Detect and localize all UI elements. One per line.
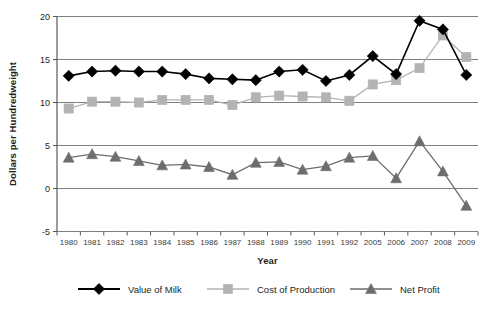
diamond-marker-icon	[157, 66, 168, 77]
y-tick-label: 5	[45, 141, 50, 151]
series-line	[69, 21, 467, 81]
x-axis-ticks: 1980198119821983198419851986198719881989…	[57, 232, 478, 248]
series-value-of-milk	[63, 15, 472, 86]
y-tick-label: -5	[42, 227, 50, 237]
square-marker-icon	[134, 98, 143, 107]
square-marker-icon	[181, 95, 190, 104]
square-marker-icon	[251, 93, 260, 102]
square-marker-icon	[158, 95, 167, 104]
triangle-marker-icon	[227, 169, 238, 179]
diamond-marker-icon	[250, 75, 261, 86]
square-marker-icon	[368, 80, 377, 89]
y-tick-label: 0	[45, 184, 50, 194]
y-gridlines: -505101520	[40, 12, 478, 237]
y-tick-label: 15	[40, 55, 50, 65]
legend-label: Cost of Production	[257, 284, 335, 295]
square-marker-icon	[275, 91, 284, 100]
square-marker-icon	[223, 284, 232, 293]
square-marker-icon	[415, 64, 424, 73]
series-net-profit	[63, 136, 471, 210]
x-tick-label: 2009	[457, 238, 475, 247]
diamond-marker-icon	[203, 73, 214, 84]
x-tick-label: 1982	[107, 238, 125, 247]
triangle-marker-icon	[414, 136, 425, 146]
square-marker-icon	[462, 52, 471, 61]
triangle-marker-icon	[461, 200, 472, 210]
square-marker-icon	[111, 97, 120, 106]
x-tick-label: 2006	[387, 238, 405, 247]
x-tick-label: 1990	[294, 238, 312, 247]
diamond-marker-icon	[227, 74, 238, 85]
x-tick-label: 1989	[270, 238, 288, 247]
diamond-marker-icon	[110, 65, 121, 76]
x-tick-label: 1991	[317, 238, 335, 247]
x-tick-label: 1988	[247, 238, 265, 247]
x-tick-label: 2007	[411, 238, 429, 247]
y-tick-label: 20	[40, 12, 50, 22]
x-axis-title: Year	[257, 255, 278, 266]
diamond-marker-icon	[86, 66, 97, 77]
x-tick-label: 1983	[130, 238, 148, 247]
x-tick-label: 1981	[83, 238, 101, 247]
diamond-marker-icon	[63, 70, 74, 81]
triangle-marker-icon	[321, 161, 332, 171]
diamond-marker-icon	[93, 283, 104, 294]
diamond-marker-icon	[133, 66, 144, 77]
diamond-marker-icon	[320, 75, 331, 86]
square-marker-icon	[204, 95, 213, 104]
chart-container: -505101520198019811982198319841985198619…	[0, 0, 489, 311]
x-tick-label: 1992	[340, 238, 358, 247]
x-tick-label: 2008	[434, 238, 452, 247]
square-marker-icon	[228, 100, 237, 109]
triangle-marker-icon	[367, 150, 378, 160]
legend-label: Net Profit	[400, 284, 440, 295]
x-tick-label: 1987	[224, 238, 242, 247]
square-marker-icon	[87, 97, 96, 106]
triangle-marker-icon	[87, 149, 98, 159]
diamond-marker-icon	[297, 64, 308, 75]
diamond-marker-icon	[274, 66, 285, 77]
square-marker-icon	[298, 92, 307, 101]
y-tick-label: 10	[40, 98, 50, 108]
square-marker-icon	[64, 104, 73, 113]
legend-label: Value of Milk	[128, 284, 182, 295]
chart-legend: Value of MilkCost of ProductionNet Profi…	[78, 283, 440, 294]
square-marker-icon	[345, 96, 354, 105]
x-tick-label: 1984	[153, 238, 171, 247]
diamond-marker-icon	[461, 69, 472, 80]
x-tick-label: 1986	[200, 238, 218, 247]
square-marker-icon	[321, 93, 330, 102]
series-line	[69, 35, 467, 108]
x-tick-label: 2005	[364, 238, 382, 247]
x-tick-label: 1985	[177, 238, 195, 247]
diamond-marker-icon	[180, 69, 191, 80]
y-axis-title: Dollars per Hundredweight	[7, 61, 18, 186]
line-chart: -505101520198019811982198319841985198619…	[0, 0, 489, 311]
x-tick-label: 1980	[60, 238, 78, 247]
series-line	[69, 141, 467, 206]
